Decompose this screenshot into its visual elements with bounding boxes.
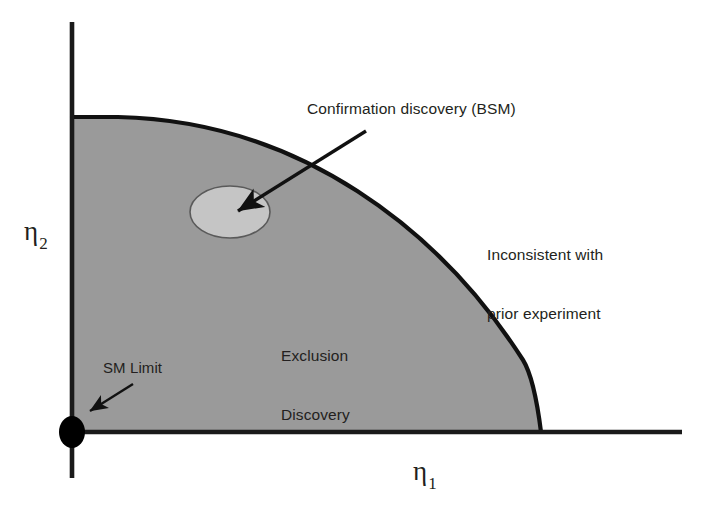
sm-limit-label: SM Limit xyxy=(103,358,162,377)
inconsistent-region-label-line2: prior experiment xyxy=(487,304,603,324)
inconsistent-region-label-line1: Inconsistent with xyxy=(487,245,603,265)
exclusion-discovery-label: Exclusion Discovery xyxy=(281,306,350,465)
x-axis-label: η1 xyxy=(413,456,436,491)
confirmation-discovery-label: Confirmation discovery (BSM) xyxy=(307,99,516,119)
y-axis-label-subscript: 2 xyxy=(39,234,48,253)
y-axis-label-base: η xyxy=(24,216,38,246)
inconsistent-region-label: Inconsistent with prior experiment xyxy=(487,205,603,364)
exclusion-discovery-label-line2: Discovery xyxy=(281,405,350,425)
sm-limit-dot xyxy=(59,416,85,448)
confirmation-arrow xyxy=(238,131,366,211)
x-axis-label-base: η xyxy=(413,456,427,486)
exclusion-discovery-label-line1: Exclusion xyxy=(281,346,350,366)
sm-limit-arrow xyxy=(90,384,133,411)
y-axis-label: η2 xyxy=(24,216,47,251)
x-axis-label-subscript: 1 xyxy=(428,474,437,493)
physics-parameter-space-diagram: Confirmation discovery (BSM) Inconsisten… xyxy=(0,0,705,518)
